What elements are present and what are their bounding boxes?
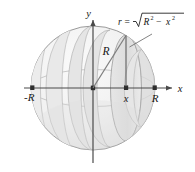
tick-label-R: R xyxy=(151,92,159,104)
sphere-cross-section-figure: y x -R x R R r = R 2 − x 2 xyxy=(0,0,195,172)
equation-equals: = xyxy=(125,17,130,27)
equation-exponent-x: 2 xyxy=(172,15,175,21)
y-axis-label: y xyxy=(85,8,91,19)
equation-exponent-R: 2 xyxy=(151,15,154,21)
tick-label-neg-R: -R xyxy=(24,91,35,103)
equation-radicand-x: x xyxy=(165,17,171,27)
x-axis-label: x xyxy=(177,83,183,94)
y-axis-arrow xyxy=(90,20,95,26)
tick-label-x: x xyxy=(123,93,129,104)
disk-radius-equation-label: r = R 2 − x 2 xyxy=(118,13,184,27)
tick-mark-R xyxy=(153,85,157,90)
equation-radicand-R: R xyxy=(143,17,150,27)
equation-minus: − xyxy=(156,17,161,27)
radius-label-R: R xyxy=(101,45,109,57)
x-axis-arrow xyxy=(166,85,172,90)
disk-center-point xyxy=(124,86,128,90)
equation-lhs: r xyxy=(118,17,122,27)
tick-mark-neg-R xyxy=(30,85,34,90)
